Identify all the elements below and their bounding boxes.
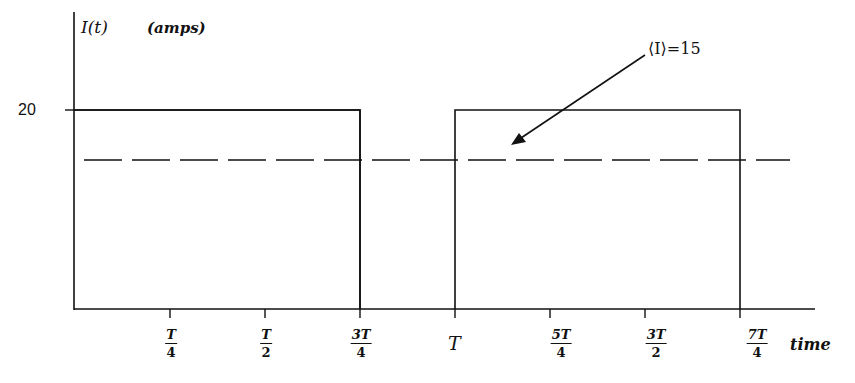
y-axis-units: (amps): [147, 19, 206, 37]
x-tick-label-T: T: [448, 332, 461, 354]
y-tick-label-20: 20: [18, 101, 36, 119]
x-tick-label-T-4: T 4: [165, 328, 177, 359]
x-axis-label: time: [790, 335, 831, 354]
arrowhead-icon: [511, 133, 526, 145]
x-tick-label-5T-4: 5T 4: [551, 328, 572, 359]
x-tick-label-3T-2: 3T 2: [646, 328, 667, 359]
annotation-arrow: [518, 55, 645, 140]
x-tick-label-3T-4: 3T 4: [351, 328, 372, 359]
y-axis-label: I(t): [81, 17, 108, 37]
x-tick-label-7T-4: 7T 4: [747, 328, 768, 359]
current-waveform: [74, 110, 360, 309]
x-tick-label-T-2: T 2: [260, 328, 272, 359]
average-annotation: ⟨I⟩=15: [648, 39, 701, 58]
current-waveform-pulses: [74, 110, 740, 309]
chart-canvas: [0, 0, 855, 383]
x-ticks: [170, 309, 740, 318]
